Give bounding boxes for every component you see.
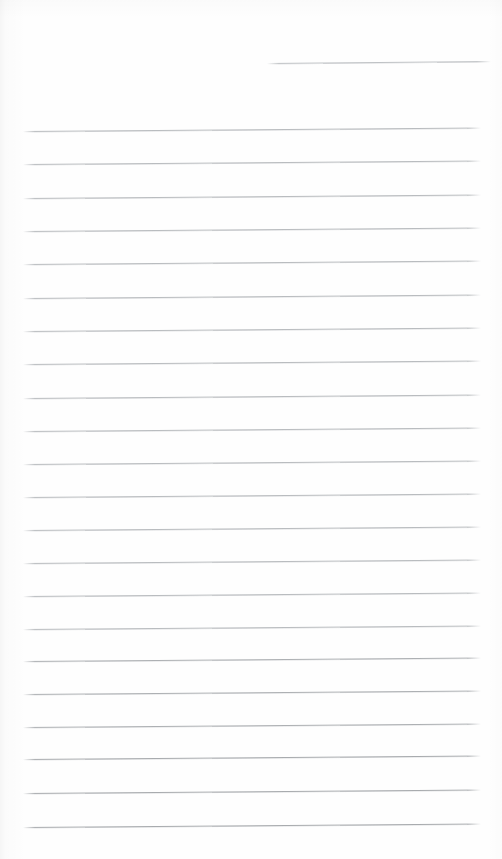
body-rule-6 <box>23 294 481 299</box>
body-rule-14 <box>23 559 481 564</box>
rule-right-fade <box>467 326 481 330</box>
rule-right-fade <box>477 60 491 64</box>
body-rule-12 <box>23 493 481 498</box>
rule-right-fade <box>467 193 481 197</box>
scanned-page <box>0 0 502 859</box>
rule-left-fade <box>23 628 35 632</box>
rule-left-fade <box>23 726 35 730</box>
rule-left-fade <box>23 758 35 762</box>
rule-left-fade <box>23 826 35 830</box>
rule-left-fade <box>23 397 35 401</box>
rule-left-fade <box>23 562 35 566</box>
body-rule-20 <box>23 755 481 760</box>
rule-left-fade <box>23 463 35 467</box>
rule-right-fade <box>467 722 481 726</box>
rule-right-fade <box>467 426 481 430</box>
body-rule-15 <box>23 592 481 597</box>
header-rule <box>267 61 491 64</box>
rule-right-fade <box>467 393 481 397</box>
body-rule-22 <box>23 823 481 828</box>
body-rule-11 <box>23 460 481 465</box>
rule-right-fade <box>467 525 481 529</box>
body-rule-8 <box>23 360 481 365</box>
rule-left-fade <box>23 163 35 167</box>
rule-right-fade <box>467 689 481 693</box>
rule-right-fade <box>467 591 481 595</box>
rule-right-fade <box>467 293 481 297</box>
rule-left-fade <box>267 62 279 66</box>
rule-left-fade <box>23 330 35 334</box>
body-rule-2 <box>23 160 481 165</box>
rule-right-fade <box>467 159 481 163</box>
rule-right-fade <box>467 459 481 463</box>
rule-left-fade <box>23 197 35 201</box>
body-rule-16 <box>23 625 481 630</box>
rule-left-fade <box>23 496 35 500</box>
body-rule-13 <box>23 526 481 531</box>
rule-right-fade <box>467 226 481 230</box>
rule-right-fade <box>467 656 481 660</box>
rule-right-fade <box>467 754 481 758</box>
body-rule-9 <box>23 394 481 399</box>
rule-right-fade <box>467 624 481 628</box>
rule-right-fade <box>467 126 481 130</box>
body-rule-5 <box>23 260 481 265</box>
rule-right-fade <box>467 359 481 363</box>
body-rule-19 <box>23 723 481 728</box>
rule-left-fade <box>23 529 35 533</box>
rule-left-fade <box>23 660 35 664</box>
rule-right-fade <box>467 492 481 496</box>
rule-left-fade <box>23 595 35 599</box>
rule-left-fade <box>23 430 35 434</box>
rule-right-fade <box>467 788 481 792</box>
body-rule-7 <box>23 327 481 332</box>
rule-right-fade <box>467 558 481 562</box>
rule-right-fade <box>467 822 481 826</box>
body-rule-17 <box>23 657 481 662</box>
rule-right-fade <box>467 259 481 263</box>
body-rule-21 <box>23 789 481 794</box>
rule-left-fade <box>23 693 35 697</box>
rule-left-fade <box>23 363 35 367</box>
rule-left-fade <box>23 792 35 796</box>
body-rule-18 <box>23 690 481 695</box>
body-rule-10 <box>23 427 481 432</box>
rule-left-fade <box>23 263 35 267</box>
body-rule-1 <box>23 127 481 132</box>
body-rule-3 <box>23 194 481 199</box>
body-rule-4 <box>23 227 481 232</box>
rule-left-fade <box>23 297 35 301</box>
rule-left-fade <box>23 130 35 134</box>
rule-left-fade <box>23 230 35 234</box>
